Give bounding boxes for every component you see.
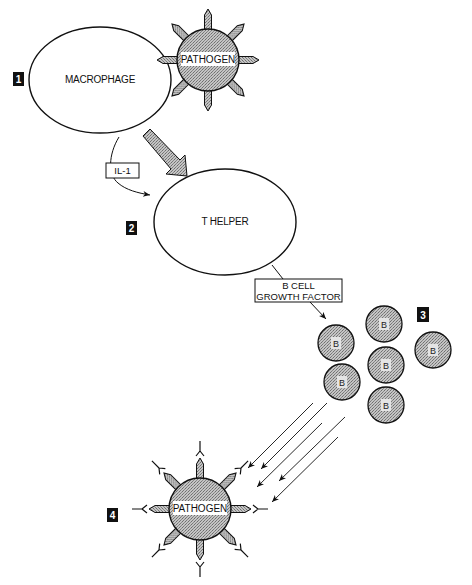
b-cell: B [366,306,402,342]
antibody-arrows [248,403,345,502]
step-1-number: 1 [16,74,22,85]
svg-text:B: B [339,378,345,388]
step-3-number: 3 [420,310,426,321]
b-cell: B [324,364,360,400]
step-2-number: 2 [129,223,135,234]
b-cell: B [415,332,451,368]
svg-text:B: B [333,339,339,349]
step-4-number: 4 [110,510,116,521]
presentation-arrow-icon [143,129,187,176]
svg-text:B: B [381,320,387,330]
pathogen-top: PATHOGEN [157,9,259,111]
svg-text:B: B [383,401,389,411]
bcgf-arrow-icon [310,302,326,319]
b-cell-growth-factor-signal: B CELL GROWTH FACTOR [255,265,342,319]
il1-label: IL-1 [114,165,130,176]
b-cell: B [368,347,404,383]
t-helper-cell: T HELPER [154,169,296,275]
step-4-badge: 4 [107,508,118,522]
b-cell-cluster: B B B B B B [318,306,451,423]
svg-text:B: B [430,346,436,356]
step-3-badge: 3 [417,307,429,322]
step-1-badge: 1 [13,72,24,86]
svg-text:B: B [383,361,389,371]
t-helper-label: T HELPER [201,216,248,227]
il1-signal: IL-1 [106,137,150,195]
macrophage-label: MACROPHAGE [65,74,136,85]
b-cell: B [368,387,404,423]
antibody-arrow-icon [257,423,322,487]
pathogen-bottom: PATHOGEN [132,441,268,577]
macrophage-cell: MACROPHAGE [29,27,171,133]
bcgf-label-line2: GROWTH FACTOR [256,291,340,302]
pathogen-top-label: PATHOGEN [181,54,236,65]
b-cell: B [318,325,354,361]
step-2-badge: 2 [126,221,137,235]
antibody-arrow-icon [248,403,313,468]
immune-response-diagram: 1 MACROPHAGE PATHOGEN IL-1 2 [0,0,472,585]
pathogen-bottom-label: PATHOGEN [173,503,228,514]
antibody-arrow-icon [261,403,327,469]
antibody-arrow-icon [272,437,338,502]
bcgf-label-line1: B CELL [282,280,315,291]
